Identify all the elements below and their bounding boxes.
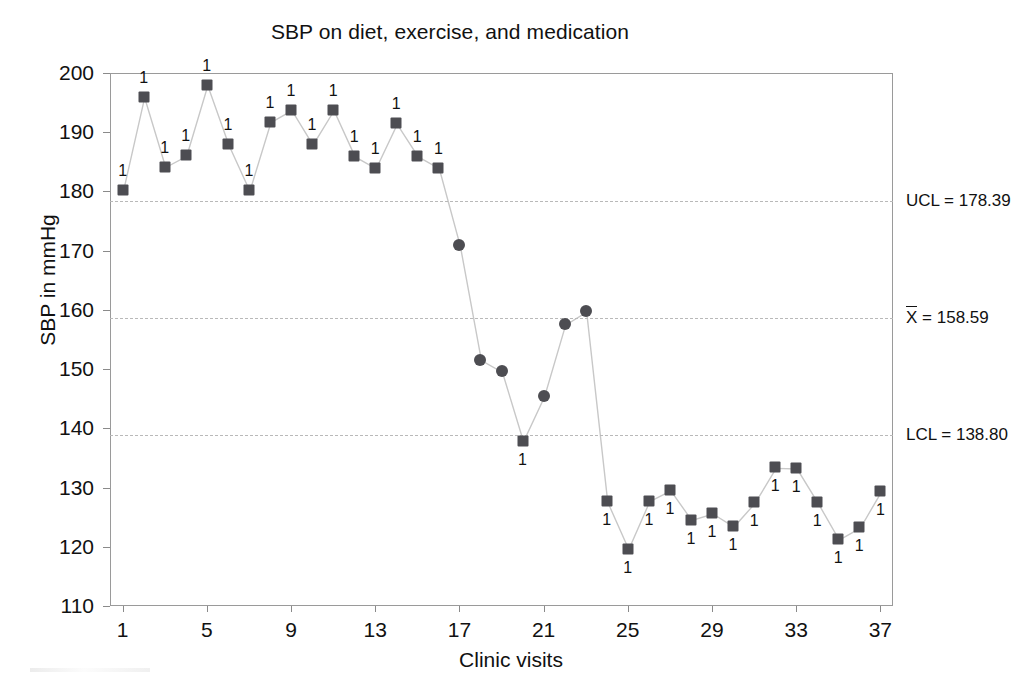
violation-label: 1 xyxy=(518,451,527,469)
data-point-marker xyxy=(180,150,191,161)
violation-label: 1 xyxy=(750,512,759,530)
x-tick-mark xyxy=(712,606,713,612)
y-tick-mark xyxy=(103,547,110,548)
x-tick-label: 9 xyxy=(261,618,321,642)
y-tick-mark xyxy=(103,369,110,370)
violation-label: 1 xyxy=(118,162,127,180)
x-tick-mark xyxy=(628,606,629,612)
data-point-marker xyxy=(138,91,149,102)
data-point-marker xyxy=(117,184,128,195)
data-point-marker xyxy=(517,435,528,446)
x-tick-label: 33 xyxy=(766,618,826,642)
y-tick-label: 170 xyxy=(14,239,94,263)
violation-label: 1 xyxy=(308,116,317,134)
plot-area xyxy=(110,73,893,606)
scan-artifact xyxy=(30,668,150,672)
control-chart-figure: SBP on diet, exercise, and medication SB… xyxy=(0,0,1036,689)
violation-label: 1 xyxy=(160,139,169,157)
limit-label-cl: X = 158.59 xyxy=(906,308,989,328)
y-tick-label: 120 xyxy=(14,535,94,559)
y-tick-mark xyxy=(103,73,110,74)
x-axis-label: Clinic visits xyxy=(130,648,892,672)
x-tick-mark xyxy=(207,606,208,612)
y-tick-label: 200 xyxy=(14,61,94,85)
x-bar-symbol: X xyxy=(906,308,917,328)
y-tick-label: 160 xyxy=(14,298,94,322)
data-point-marker xyxy=(453,239,465,251)
data-point-marker xyxy=(391,118,402,129)
data-point-marker xyxy=(854,522,865,533)
violation-label: 1 xyxy=(876,501,885,519)
data-point-marker xyxy=(664,484,675,495)
violation-label: 1 xyxy=(329,82,338,100)
data-point-marker xyxy=(833,534,844,545)
x-tick-label: 21 xyxy=(514,618,574,642)
violation-label: 1 xyxy=(813,512,822,530)
violation-label: 1 xyxy=(287,82,296,100)
violation-label: 1 xyxy=(665,500,674,518)
data-point-marker xyxy=(812,497,823,508)
data-point-marker xyxy=(728,521,739,532)
data-point-marker xyxy=(559,318,571,330)
x-tick-label: 13 xyxy=(345,618,405,642)
x-tick-label: 29 xyxy=(682,618,742,642)
violation-label: 1 xyxy=(855,537,864,555)
x-tick-label: 5 xyxy=(177,618,237,642)
violation-label: 1 xyxy=(350,128,359,146)
limit-line-lcl xyxy=(110,435,893,436)
data-point-marker xyxy=(685,514,696,525)
x-tick-label: 25 xyxy=(598,618,658,642)
violation-label: 1 xyxy=(244,162,253,180)
limit-value: = 158.59 xyxy=(917,308,988,327)
data-point-marker xyxy=(538,390,550,402)
data-point-marker xyxy=(412,150,423,161)
violation-label: 1 xyxy=(729,536,738,554)
data-point-marker xyxy=(286,104,297,115)
y-tick-mark xyxy=(103,310,110,311)
data-point-marker xyxy=(643,495,654,506)
y-tick-mark xyxy=(103,606,110,607)
data-point-marker xyxy=(433,162,444,173)
y-tick-mark xyxy=(103,428,110,429)
violation-label: 1 xyxy=(434,140,443,158)
y-tick-label: 130 xyxy=(14,476,94,500)
violation-label: 1 xyxy=(644,511,653,529)
data-point-marker xyxy=(601,496,612,507)
x-tick-mark xyxy=(880,606,881,612)
x-tick-mark xyxy=(544,606,545,612)
limit-label-lcl: LCL = 138.80 xyxy=(906,425,1008,445)
data-point-marker xyxy=(370,162,381,173)
violation-label: 1 xyxy=(266,94,275,112)
y-tick-mark xyxy=(103,132,110,133)
data-point-marker xyxy=(349,150,360,161)
data-point-marker xyxy=(770,462,781,473)
data-point-marker xyxy=(222,139,233,150)
y-tick-mark xyxy=(103,488,110,489)
data-point-marker xyxy=(622,543,633,554)
violation-label: 1 xyxy=(834,549,843,567)
data-point-marker xyxy=(580,305,592,317)
y-tick-mark xyxy=(103,191,110,192)
x-tick-label: 1 xyxy=(93,618,153,642)
violation-label: 1 xyxy=(223,116,232,134)
x-tick-mark xyxy=(291,606,292,612)
violation-label: 1 xyxy=(686,530,695,548)
x-tick-label: 37 xyxy=(850,618,910,642)
violation-label: 1 xyxy=(771,477,780,495)
violation-label: 1 xyxy=(392,95,401,113)
y-tick-label: 190 xyxy=(14,120,94,144)
y-axis-label: SBP in mmHg xyxy=(36,180,60,380)
x-tick-mark xyxy=(796,606,797,612)
limit-line-cl xyxy=(110,318,893,319)
x-tick-label: 17 xyxy=(429,618,489,642)
data-point-marker xyxy=(474,354,486,366)
data-point-marker xyxy=(706,508,717,519)
y-tick-label: 110 xyxy=(14,594,94,618)
chart-title: SBP on diet, exercise, and medication xyxy=(0,20,900,44)
data-point-marker xyxy=(328,104,339,115)
y-tick-mark xyxy=(103,251,110,252)
violation-label: 1 xyxy=(623,559,632,577)
series-line xyxy=(111,74,894,607)
data-point-marker xyxy=(875,486,886,497)
x-tick-mark xyxy=(123,606,124,612)
